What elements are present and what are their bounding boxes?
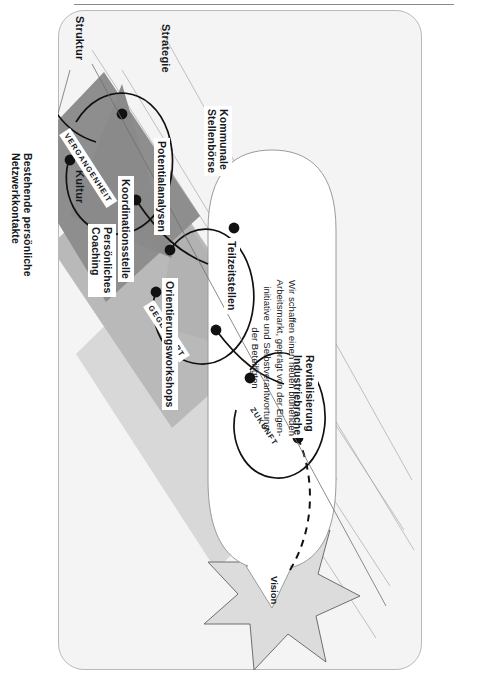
axis-label-strategie: Strategie — [160, 24, 172, 73]
node-label-orientierungsworkshops: Orientierungsworkshops — [162, 278, 178, 410]
node-label-teilzeitstellen: Teilzeitstellen — [224, 238, 240, 314]
diagram-graphics — [58, 10, 422, 670]
figure-rotated-host: Strategie Kultur Struktur VERGANGENHEIT … — [58, 10, 422, 670]
node-dot-teilzeitstellen — [211, 325, 222, 336]
node-label-persoenliches-coaching: Persönliches Coaching — [88, 224, 116, 297]
header-rule — [74, 4, 454, 5]
diagram-stage: Strategie Kultur Struktur VERGANGENHEIT … — [58, 10, 422, 670]
axis-label-struktur: Struktur — [74, 16, 86, 60]
node-label-bestehende-netzwerkkontakte: Bestehende persönliche Netzwerkkontakte — [8, 150, 36, 280]
running-header: Marion Keil — [14, 0, 454, 8]
running-header-title: Marion Keil — [14, 0, 59, 2]
node-dot-persoenliches-coaching — [117, 109, 128, 120]
node-dot-potentialanalysen — [151, 287, 162, 298]
page-canvas: Marion Keil — [0, 0, 480, 700]
node-label-koordinationsstelle: Koordinationsstelle — [118, 176, 134, 282]
node-label-potentialanalysen: Potentialanalysen — [154, 138, 170, 235]
vision-star-label: Vision — [269, 576, 280, 604]
node-label-kommunale-stellenboerse: Kommunale Stellenbörse — [204, 106, 232, 176]
node-dot-koordinationsstelle — [165, 245, 176, 256]
vision-bubble-text: Wir schaffen einen neuen blühenden Arbei… — [248, 272, 298, 444]
node-dot-kommunale-stellenboerse — [229, 223, 240, 234]
